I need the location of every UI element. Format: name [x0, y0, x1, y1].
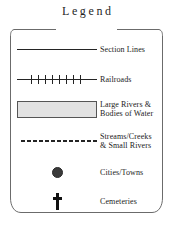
legend-label-line: Large Rivers &	[100, 100, 160, 109]
legend-label-section-lines: Section Lines	[99, 45, 160, 54]
railroad-tie	[38, 75, 39, 84]
legend-label-line: Cities/Towns	[100, 168, 160, 177]
dash-segment	[81, 140, 85, 142]
symbol-cell-large-rivers	[15, 96, 99, 122]
railroad-bar	[17, 79, 97, 80]
legend-row-cemeteries: Cemeteries	[15, 190, 160, 212]
railroad-tie	[45, 75, 46, 84]
dash-segment	[27, 140, 31, 142]
solid-line-icon	[17, 49, 97, 50]
legend-label-railroads: Railroads	[99, 75, 160, 84]
symbol-cell-section-lines	[15, 36, 99, 62]
water-body-rectangle-icon	[17, 101, 97, 118]
railroad-tie	[31, 75, 32, 84]
legend-label-line: Cemeteries	[100, 197, 160, 206]
dash-segment	[39, 140, 43, 142]
dash-segment	[51, 140, 55, 142]
legend-label-line: Section Lines	[100, 45, 160, 54]
dash-segment	[63, 140, 67, 142]
railroad-tie	[66, 75, 67, 84]
legend-row-section-lines: Section Lines	[15, 38, 160, 60]
cemetery-cross-icon	[52, 193, 63, 210]
legend-row-large-rivers: Large Rivers & Bodies of Water	[15, 96, 160, 122]
legend-label-cemeteries: Cemeteries	[99, 197, 160, 206]
dash-segment	[45, 140, 49, 142]
dash-segment	[93, 140, 97, 142]
dash-segment	[87, 140, 91, 142]
city-dot-icon	[52, 167, 63, 178]
dash-segment	[69, 140, 73, 142]
railroad-tie	[80, 75, 81, 84]
symbol-cell-railroads	[15, 66, 99, 92]
legend-row-streams: Streams/Creeks & Small Rivers	[15, 128, 160, 154]
cross-vertical-bar	[56, 193, 59, 210]
legend-label-large-rivers: Large Rivers & Bodies of Water	[99, 100, 160, 118]
dashed-line-icon	[17, 140, 97, 142]
dash-segment	[21, 140, 25, 142]
legend-label-line: & Small Rivers	[100, 141, 160, 150]
legend-row-railroads: Railroads	[15, 68, 160, 90]
railroad-tie	[59, 75, 60, 84]
railroad-line-icon	[17, 75, 97, 84]
legend-row-cities-towns: Cities/Towns	[15, 161, 160, 183]
symbol-cell-cemeteries	[15, 188, 99, 214]
legend-label-line: Railroads	[100, 75, 160, 84]
legend-entry-list: Section Lines Railroads	[10, 16, 163, 213]
railroad-tie	[73, 75, 74, 84]
cross-horizontal-bar	[53, 197, 62, 200]
dash-segment	[57, 140, 61, 142]
railroad-tie	[52, 75, 53, 84]
dash-segment	[33, 140, 37, 142]
legend-label-cities-towns: Cities/Towns	[99, 168, 160, 177]
legend-label-line: Streams/Creeks	[100, 132, 160, 141]
symbol-cell-streams	[15, 128, 99, 154]
symbol-cell-cities-towns	[15, 159, 99, 185]
legend-label-streams: Streams/Creeks & Small Rivers	[99, 132, 160, 150]
dash-segment	[75, 140, 79, 142]
legend-label-line: Bodies of Water	[100, 109, 160, 118]
map-legend-panel: Legend Section Lines	[10, 16, 163, 213]
